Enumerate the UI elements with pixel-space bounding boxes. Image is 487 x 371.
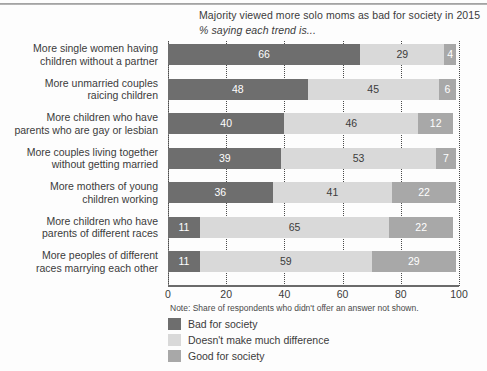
bar-segment: 29: [360, 44, 444, 65]
x-tick-label: 100: [450, 288, 468, 300]
legend-label: Bad for society: [188, 318, 257, 330]
bar-value-label: 11: [179, 256, 190, 267]
bar-segment: 40: [168, 113, 284, 134]
x-tick-label: 40: [279, 288, 291, 300]
bar-value-label: 36: [215, 187, 227, 198]
chart-title: Majority viewed more solo moms as bad fo…: [199, 9, 480, 21]
legend-item[interactable]: Bad for society: [168, 316, 329, 331]
bar-value-label: 41: [327, 187, 339, 198]
x-tick-label: 60: [337, 288, 349, 300]
bar-segment: 59: [200, 251, 372, 272]
bar-segment: 12: [418, 113, 453, 134]
chart-subtitle: % saying each trend is...: [199, 24, 316, 36]
bar-segment: 65: [200, 217, 389, 238]
category-label: More mothers of youngchildren working: [0, 180, 158, 205]
bar-segment: 4: [444, 44, 456, 65]
bar-row: 404612: [168, 113, 459, 134]
bar-row: 39537: [168, 148, 459, 169]
bar-value-label: 40: [220, 118, 232, 129]
bar-value-label: 45: [367, 84, 379, 95]
bar-value-label: 29: [396, 49, 408, 60]
bar-value-label: 29: [408, 256, 420, 267]
legend-swatch: [168, 334, 181, 346]
bar-value-label: 48: [232, 84, 244, 95]
category-label: More children who haveparents of differe…: [0, 215, 158, 240]
chart-legend: Bad for societyDoesn't make much differe…: [168, 316, 329, 364]
x-tick-label: 80: [395, 288, 407, 300]
plot-area: 662944845640461239537364122116522115929: [168, 41, 459, 286]
bar-value-label: 39: [219, 153, 231, 164]
category-label: More couples living togetherwithout gett…: [0, 146, 158, 171]
bar-segment: 22: [389, 217, 453, 238]
x-axis-tick-labels: 020406080100: [168, 288, 459, 302]
x-tick-label: 20: [220, 288, 232, 300]
bar-rows: 662944845640461239537364122116522115929: [168, 41, 459, 286]
legend-swatch: [168, 350, 181, 362]
legend-label: Doesn't make much difference: [188, 334, 329, 346]
bar-value-label: 11: [179, 222, 190, 233]
bar-value-label: 66: [258, 49, 270, 60]
gridline-100: [459, 41, 460, 286]
bar-row: 48456: [168, 79, 459, 100]
bar-value-label: 59: [280, 256, 292, 267]
bar-row: 66294: [168, 44, 459, 65]
bar-row: 116522: [168, 217, 459, 238]
bar-segment: 39: [168, 148, 281, 169]
top-divider: [0, 3, 487, 5]
bar-segment: 66: [168, 44, 360, 65]
bar-value-label: 7: [443, 153, 449, 164]
category-label: More children who haveparents who are ga…: [0, 111, 158, 136]
bar-value-label: 53: [353, 153, 365, 164]
bar-segment: 46: [284, 113, 418, 134]
chart-figure: Majority viewed more solo moms as bad fo…: [0, 0, 487, 371]
bar-value-label: 6: [444, 84, 450, 95]
category-axis-labels: More single women havingchildren without…: [0, 41, 163, 286]
bar-segment: 6: [439, 79, 456, 100]
bar-value-label: 12: [430, 118, 442, 129]
bar-segment: 11: [168, 251, 200, 272]
category-label: More unmarried couplesraicing children: [0, 77, 158, 102]
x-axis-line: [168, 285, 459, 287]
bar-row: 115929: [168, 251, 459, 272]
bar-segment: 29: [372, 251, 456, 272]
bar-segment: 53: [281, 148, 435, 169]
bar-row: 364122: [168, 182, 459, 203]
bar-segment: 11: [168, 217, 200, 238]
bar-value-label: 46: [345, 118, 357, 129]
category-label: More peoples of differentraces marrying …: [0, 249, 158, 274]
chart-note: Note: Share of respondents who didn't of…: [170, 303, 419, 313]
bar-value-label: 22: [415, 222, 427, 233]
legend-label: Good for society: [188, 350, 264, 362]
category-label: More single women havingchildren without…: [0, 42, 158, 67]
bar-value-label: 22: [418, 187, 430, 198]
bar-value-label: 65: [289, 222, 301, 233]
bar-segment: 7: [436, 148, 456, 169]
bar-segment: 22: [392, 182, 456, 203]
legend-swatch: [168, 318, 181, 330]
bar-value-label: 4: [447, 49, 453, 60]
x-tick-label: 0: [165, 288, 171, 300]
bar-segment: 41: [273, 182, 392, 203]
bar-segment: 36: [168, 182, 273, 203]
bar-segment: 45: [308, 79, 439, 100]
legend-item[interactable]: Good for society: [168, 348, 329, 363]
bar-segment: 48: [168, 79, 308, 100]
legend-item[interactable]: Doesn't make much difference: [168, 332, 329, 347]
